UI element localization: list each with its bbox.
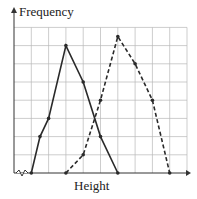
data-point: [38, 135, 42, 139]
x-axis-label: Height: [74, 178, 109, 194]
data-point: [116, 171, 120, 175]
data-point: [64, 44, 68, 48]
data-point: [30, 171, 34, 175]
data-point: [81, 80, 85, 84]
frequency-polygon-chart: [0, 0, 197, 199]
data-point: [81, 153, 85, 157]
solid-line: [31, 46, 118, 173]
data-point: [64, 171, 68, 175]
data-point: [168, 171, 172, 175]
data-point: [47, 117, 51, 121]
axes: [11, 7, 191, 176]
y-axis-label: Frequency: [19, 4, 74, 20]
data-point: [133, 62, 137, 66]
data-point: [116, 35, 120, 39]
data-point: [151, 98, 155, 102]
data-point: [99, 135, 103, 139]
data-point: [99, 98, 103, 102]
